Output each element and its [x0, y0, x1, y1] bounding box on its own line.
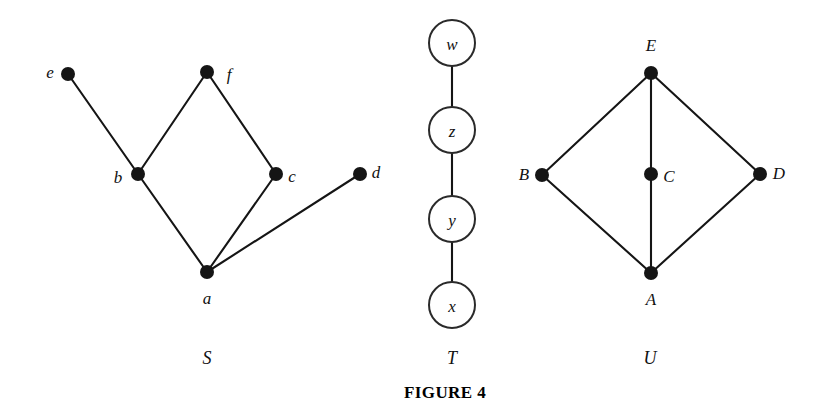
edge-group-s	[68, 72, 360, 272]
vertex-label-e: e	[46, 64, 54, 81]
figure-caption: FIGURE 4	[404, 384, 486, 401]
vertex-C[interactable]	[644, 167, 658, 181]
vertex-label-C: C	[663, 168, 674, 185]
edge-E-B	[542, 73, 651, 175]
vertex-b[interactable]	[131, 167, 145, 181]
vertex-label-c: c	[288, 168, 296, 185]
vertex-e[interactable]	[61, 67, 75, 81]
figure-root: efbcdaSwzyxTEBCDAU FIGURE 4	[0, 0, 832, 415]
graph-name-u: U	[644, 349, 657, 367]
vertex-c[interactable]	[269, 167, 283, 181]
vertex-f[interactable]	[200, 65, 214, 79]
vertex-label-B: B	[519, 166, 529, 183]
edge-b-a	[138, 174, 207, 272]
vertex-A[interactable]	[644, 266, 658, 280]
vertex-label-x: x	[448, 298, 456, 315]
graph-name-t: T	[447, 349, 457, 367]
vertex-label-D: D	[773, 165, 785, 182]
edge-B-A	[542, 175, 651, 273]
vertex-B[interactable]	[535, 168, 549, 182]
vertex-label-d: d	[372, 164, 381, 181]
vertex-group-s	[61, 65, 367, 279]
vertex-label-a: a	[203, 290, 212, 307]
vertex-label-E: E	[646, 37, 656, 54]
edge-b-f	[138, 72, 207, 174]
edge-e-b	[68, 74, 138, 174]
vertex-a[interactable]	[200, 265, 214, 279]
edge-E-D	[651, 73, 760, 174]
vertex-label-f: f	[227, 66, 232, 83]
edge-a-d	[207, 174, 360, 272]
vertex-E[interactable]	[644, 66, 658, 80]
vertex-D[interactable]	[753, 167, 767, 181]
graph-drawing-layer	[0, 0, 832, 415]
edge-f-c	[207, 72, 276, 174]
vertex-label-y: y	[448, 212, 456, 229]
vertex-label-A: A	[646, 291, 656, 308]
vertex-label-z: z	[449, 123, 456, 140]
vertex-label-b: b	[114, 169, 123, 186]
vertex-label-w: w	[446, 36, 457, 53]
edge-D-A	[651, 174, 760, 273]
vertex-d[interactable]	[353, 167, 367, 181]
graph-name-s: S	[203, 349, 212, 367]
edge-c-a	[207, 174, 276, 272]
